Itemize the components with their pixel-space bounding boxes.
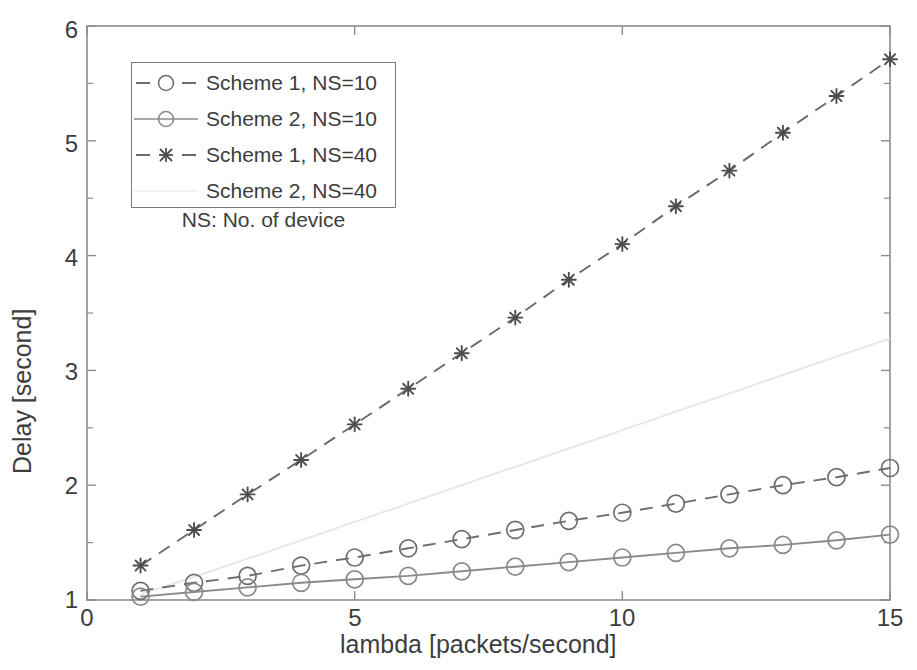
xtick-label-15: 15 [870, 604, 910, 632]
legend-note: NS: No. of device [131, 208, 396, 232]
legend-item-2: Scheme 1, NS=40 [132, 137, 395, 173]
ytick-label-6: 6 [48, 16, 78, 44]
legend: Scheme 1, NS=10 Scheme 2, NS=10 [131, 62, 396, 208]
xtick-label-5: 5 [335, 604, 375, 632]
xtick-label-10: 10 [602, 604, 642, 632]
legend-item-3: Scheme 2, NS=40 [132, 173, 395, 209]
ytick-label-2: 2 [48, 472, 78, 500]
legend-sample-scheme-2-ns-40 [132, 179, 206, 203]
legend-label-1: Scheme 2, NS=10 [206, 107, 377, 131]
y-axis-title: Delay [second] [8, 309, 37, 474]
legend-label-3: Scheme 2, NS=40 [206, 179, 377, 203]
ytick-label-4: 4 [48, 244, 78, 272]
legend-item-0: Scheme 1, NS=10 [132, 65, 395, 101]
xtick-label-0: 0 [67, 604, 107, 632]
legend-item-1: Scheme 2, NS=10 [132, 101, 395, 137]
legend-sample-scheme-2-ns-10 [132, 107, 206, 131]
legend-label-2: Scheme 1, NS=40 [206, 143, 377, 167]
legend-sample-scheme-1-ns-10 [132, 71, 206, 95]
chart-figure: 6 5 4 3 2 1 0 5 10 15 Delay [second] lam… [0, 0, 917, 670]
legend-label-0: Scheme 1, NS=10 [206, 71, 377, 95]
series-4 [141, 338, 891, 594]
legend-sample-scheme-1-ns-40 [132, 143, 206, 167]
ytick-label-3: 3 [48, 358, 78, 386]
x-axis-title: lambda [packets/second] [340, 630, 617, 659]
ytick-label-5: 5 [48, 130, 78, 158]
